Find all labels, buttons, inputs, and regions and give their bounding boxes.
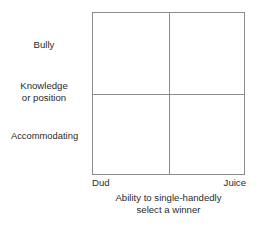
x-axis-title: Ability to single-handedly select a winn… [76, 192, 261, 216]
quadrant-top-right [169, 13, 245, 94]
y-axis-label-accommodating: Accommodating [0, 130, 89, 142]
quadrant-top-left [93, 13, 169, 94]
y-axis-label-knowledge-line1: Knowledge [20, 80, 67, 91]
quadrant-bottom-right [169, 94, 245, 175]
horizontal-divider-line [93, 94, 244, 95]
quadrant-matrix-figure: Bully Knowledge or position Accommodatin… [0, 0, 261, 231]
x-axis-title-line2: select a winner [76, 204, 261, 216]
y-axis-label-knowledge-line2: or position [22, 92, 66, 103]
matrix-box [92, 12, 245, 175]
quadrant-bottom-left [93, 94, 169, 175]
y-axis-label-knowledge-or-position: Knowledge or position [2, 80, 86, 103]
y-axis-label-bully: Bully [2, 39, 86, 51]
x-axis-title-line1: Ability to single-handedly [76, 192, 261, 204]
x-axis-label-juice: Juice [0, 177, 246, 188]
